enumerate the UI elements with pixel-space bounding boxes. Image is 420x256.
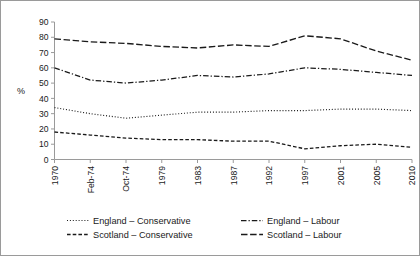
- x-axis: 1970Feb-74Oct-74197919831987199219972001…: [50, 160, 418, 194]
- series-line-scotland-conservative: [55, 132, 413, 149]
- y-tick-label: 40: [39, 94, 49, 104]
- series-line-england-labour: [55, 68, 413, 83]
- x-tick-label: 1979: [157, 166, 167, 185]
- y-tick-label: 30: [39, 109, 49, 119]
- y-tick-label: 80: [39, 32, 49, 42]
- legend-label: Scotland – Conservative: [93, 230, 193, 240]
- series-lines: [55, 36, 413, 149]
- y-tick-label: 50: [39, 78, 49, 88]
- x-tick-label: 2001: [336, 166, 346, 185]
- y-axis: 0102030405060708090%: [17, 17, 55, 165]
- y-tick-label: 70: [39, 48, 49, 58]
- x-tick-label: 1992: [264, 166, 274, 185]
- x-tick-label: 2010: [407, 166, 417, 185]
- x-tick-label: 2005: [372, 166, 382, 185]
- series-line-england-conservative: [55, 108, 413, 119]
- y-tick-label: 60: [39, 63, 49, 73]
- x-tick-label: 1987: [229, 166, 239, 185]
- chart-figure: 0102030405060708090% 1970Feb-74Oct-74197…: [0, 0, 420, 256]
- y-tick-label: 0: [44, 155, 49, 165]
- legend-label: Scotland – Labour: [267, 230, 342, 240]
- y-tick-label: 20: [39, 124, 49, 134]
- legend-label: England – Labour: [267, 216, 340, 226]
- y-tick-label: 90: [39, 17, 49, 27]
- x-tick-label: Feb-74: [86, 166, 96, 193]
- chart-legend: England – ConservativeEngland – LabourSc…: [67, 216, 342, 240]
- x-tick-label: 1983: [193, 166, 203, 185]
- x-tick-label: 1997: [300, 166, 310, 185]
- y-tick-label: 10: [39, 139, 49, 149]
- legend-label: England – Conservative: [93, 216, 191, 226]
- series-line-scotland-labour: [55, 36, 413, 60]
- x-tick-label: Oct-74: [121, 166, 131, 192]
- line-chart-svg: 0102030405060708090% 1970Feb-74Oct-74197…: [1, 1, 420, 256]
- x-tick-label: 1970: [50, 166, 60, 185]
- y-axis-title: %: [17, 86, 25, 96]
